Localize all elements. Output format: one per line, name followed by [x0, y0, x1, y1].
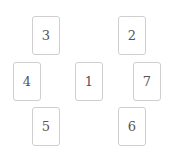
card-5[interactable]: 5	[32, 107, 60, 146]
card-label: 6	[128, 120, 136, 133]
card-7[interactable]: 7	[133, 62, 161, 101]
card-4[interactable]: 4	[13, 62, 41, 101]
card-label: 4	[23, 75, 31, 88]
card-label: 3	[42, 29, 50, 42]
card-3[interactable]: 3	[32, 16, 60, 55]
card-label: 5	[42, 120, 50, 133]
card-1[interactable]: 1	[75, 62, 103, 101]
card-6[interactable]: 6	[118, 107, 146, 146]
card-label: 2	[128, 29, 136, 42]
card-label: 1	[85, 75, 93, 88]
card-2[interactable]: 2	[118, 16, 146, 55]
card-label: 7	[143, 75, 151, 88]
